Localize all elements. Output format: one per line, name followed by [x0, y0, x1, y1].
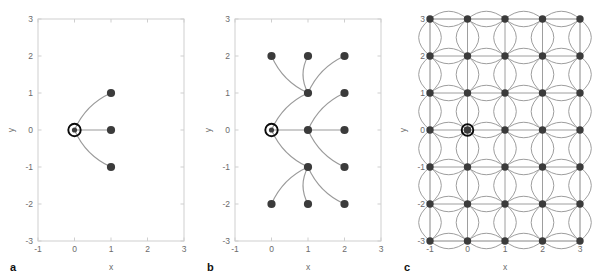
y-tick-label: -3: [417, 236, 425, 246]
panel-a-plot: -10123-3-2-10123xya: [0, 0, 197, 280]
lattice-edge-arc: [505, 167, 543, 175]
tree-edge: [272, 130, 309, 167]
lattice-edge-arc: [430, 56, 468, 64]
state-node: [107, 126, 115, 134]
state-node: [304, 163, 312, 171]
lattice-edge-arc: [468, 196, 506, 204]
tree-edge: [272, 93, 309, 130]
lattice-edge-arc: [468, 204, 506, 212]
lattice-node: [539, 237, 546, 244]
x-tick-label: 3: [379, 244, 384, 254]
lattice-edge-arc: [580, 93, 591, 130]
lattice-edge-arc: [543, 196, 581, 204]
panel-label-a: a: [10, 261, 17, 273]
y-tick-label: -2: [417, 199, 425, 209]
lattice-edge-arc: [430, 241, 468, 249]
y-tick-label: 2: [420, 51, 425, 61]
state-node: [304, 89, 312, 97]
lattice-node: [501, 200, 508, 207]
lattice-edge-arc: [543, 204, 581, 212]
lattice-edge-arc: [505, 93, 543, 101]
lattice-edge-arc: [543, 48, 581, 56]
y-tick-label: -2: [25, 199, 33, 209]
lattice-edge-arc: [468, 93, 506, 101]
lattice-node: [464, 237, 471, 244]
lattice-edge-arc: [468, 167, 506, 175]
state-node: [107, 89, 115, 97]
y-tick-label: 3: [420, 14, 425, 24]
y-tick-label: 1: [420, 88, 425, 98]
x-tick-label: 3: [578, 244, 583, 254]
lattice-node: [501, 126, 508, 133]
lattice-node: [426, 126, 433, 133]
lattice-edge-arc: [468, 241, 506, 249]
lattice-edge-arc: [468, 56, 506, 64]
lattice-edge-arc: [543, 11, 581, 19]
lattice-node: [426, 15, 433, 22]
y-tick-label: 0: [225, 125, 230, 135]
lattice-node: [576, 237, 583, 244]
x-tick-label: -1: [426, 244, 434, 254]
y-axis-title: y: [203, 127, 213, 132]
x-tick-label: -1: [34, 244, 42, 254]
state-node: [340, 163, 348, 171]
lattice-edge-arc: [468, 11, 506, 19]
x-tick-label: -1: [231, 244, 239, 254]
lattice-node: [501, 163, 508, 170]
lattice-edge-arc: [505, 196, 543, 204]
y-tick-label: 3: [225, 14, 230, 24]
tree-edge: [308, 93, 345, 130]
lattice-edge-arc: [580, 56, 591, 93]
y-tick-label: -3: [222, 236, 230, 246]
lattice-edge-arc: [430, 159, 468, 167]
lattice-edge-arc: [543, 56, 581, 64]
lattice-edge-arc: [505, 19, 543, 27]
lattice-node: [539, 52, 546, 59]
origin-node: [72, 127, 77, 132]
lattice-edge-arc: [505, 122, 543, 130]
tree-edge: [303, 167, 308, 204]
lattice-node: [539, 89, 546, 96]
x-tick-label: 1: [109, 244, 114, 254]
lattice-node: [501, 89, 508, 96]
panel-label-c: c: [404, 261, 410, 273]
state-node: [340, 200, 348, 208]
lattice-node: [576, 126, 583, 133]
lattice-node: [426, 89, 433, 96]
lattice-edge-arc: [543, 93, 581, 101]
lattice-node: [539, 126, 546, 133]
lattice-node: [464, 15, 471, 22]
lattice-node: [426, 163, 433, 170]
tree-edge: [308, 167, 345, 204]
lattice-node: [539, 200, 546, 207]
lattice-node: [464, 163, 471, 170]
state-node: [107, 163, 115, 171]
y-tick-label: -1: [417, 162, 425, 172]
state-node: [267, 52, 275, 60]
lattice-edge-arc: [580, 130, 591, 167]
x-tick-label: 3: [182, 244, 187, 254]
origin-node: [269, 127, 274, 132]
lattice-edge-arc: [505, 204, 543, 212]
lattice-edge-arc: [468, 48, 506, 56]
lattice-node: [464, 200, 471, 207]
lattice-node: [576, 52, 583, 59]
lattice-node: [576, 89, 583, 96]
state-node: [267, 200, 275, 208]
lattice-edge-arc: [505, 159, 543, 167]
x-tick-label: 1: [306, 244, 311, 254]
y-axis-title: y: [398, 127, 408, 132]
lattice-edge-arc: [543, 241, 581, 249]
figure-panels: -10123-3-2-10123xya -10123-3-2-10123xyb …: [0, 0, 593, 280]
lattice-edge-arc: [580, 167, 591, 204]
tree-edge: [308, 130, 345, 167]
y-tick-label: -2: [222, 199, 230, 209]
panel-label-b: b: [207, 261, 214, 273]
lattice-edge-arc: [505, 241, 543, 249]
lattice-edge-arc: [580, 19, 591, 56]
lattice-node: [426, 52, 433, 59]
y-tick-label: 3: [28, 14, 33, 24]
panel-b-plot: -10123-3-2-10123xyb: [197, 0, 394, 280]
lattice-node: [501, 237, 508, 244]
state-node: [340, 89, 348, 97]
